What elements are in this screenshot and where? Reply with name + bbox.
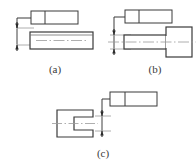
subfigure-c [52,92,157,137]
leader-line-a [17,18,31,28]
leader-line-c [102,99,110,112]
subfigure-caption-a: (a) [38,64,72,75]
frame-outline-c [110,92,157,106]
subfigure-caption-b: (b) [138,64,172,75]
subfigure-a [17,11,93,51]
frame-outline-a [31,11,78,24]
engineering-drawing-figure: (a) (b) (c) [0,0,196,167]
subfigure-b [108,10,196,57]
leader-line-b [114,17,125,31]
feature-control-frame-a[interactable] [31,11,78,24]
feature-control-frame-c[interactable] [110,92,157,106]
feature-control-frame-b[interactable] [125,10,172,23]
subfigure-caption-c: (c) [86,148,120,159]
frame-outline-b [125,10,172,23]
figure-canvas [0,0,196,167]
